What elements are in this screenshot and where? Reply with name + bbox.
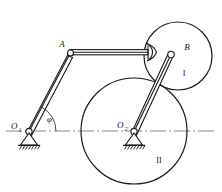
link-o2-b [132, 53, 174, 135]
label-angle-phi: φ [47, 114, 52, 124]
label-pivot-o1-base: O [11, 121, 18, 131]
label-pivot-o1-sub: 1 [19, 127, 22, 133]
label-pivot-o2: O 2 [117, 120, 128, 132]
rod-fork-head [147, 44, 157, 61]
ground-hatching-o2 [125, 145, 146, 149]
connecting-rod-a-b [70, 50, 148, 55]
pin-joint-a [68, 50, 74, 56]
ground-hatching-o1 [20, 145, 41, 149]
label-point-b: B [184, 42, 190, 52]
label-pivot-o2-base: O [117, 120, 124, 130]
pin-joint-b [168, 51, 174, 57]
mechanism-diagram: A B O 1 O 2 φ I II [0, 0, 222, 192]
label-wheel-one: I [183, 69, 186, 78]
label-pivot-o2-sub: 2 [125, 126, 128, 132]
label-wheel-two: II [156, 156, 162, 165]
mechanism-svg: A B O 1 O 2 φ I II [0, 0, 222, 192]
label-point-a: A [58, 39, 65, 49]
